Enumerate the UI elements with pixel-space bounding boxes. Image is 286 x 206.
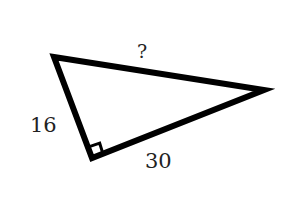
triangle-outline [54, 57, 264, 158]
right-angle-marker [89, 143, 104, 158]
bottom-leg-label: 30 [145, 151, 172, 172]
left-leg-label: 16 [30, 115, 57, 136]
hypotenuse-label: ? [137, 42, 147, 61]
right-triangle-diagram [0, 0, 286, 206]
